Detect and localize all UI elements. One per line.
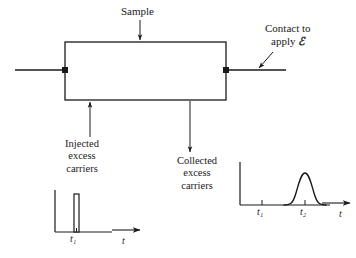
- right-contact-dot: [223, 67, 229, 73]
- injected-excess-carriers-label: Injected excess carriers: [39, 138, 125, 175]
- sample-label: Sample: [121, 5, 154, 18]
- semiconductor-bar: [65, 42, 226, 100]
- left-plot-x-axis-label: t: [122, 235, 125, 246]
- contact-pointer: [259, 52, 273, 68]
- electric-field-symbol: ℰ: [298, 35, 305, 48]
- left-plot-t1-label: t₁: [70, 233, 76, 244]
- contact-label-line1: Contact to: [265, 22, 311, 34]
- left-plot-injection-pulse: [74, 194, 79, 232]
- contact-label-line2: apply: [271, 35, 295, 47]
- injected-label-line3: carriers: [66, 163, 97, 174]
- collected-label-line2: excess: [183, 167, 210, 178]
- injected-excess-carriers-plot: [55, 190, 140, 232]
- collected-label-line1: Collected: [177, 155, 217, 166]
- right-plot-t2-label: t₂: [300, 206, 306, 217]
- injected-label-line1: Injected: [65, 138, 99, 149]
- injected-label-line2: excess: [68, 150, 95, 161]
- collected-label-line3: carriers: [181, 180, 212, 191]
- right-plot-t1-label: t₁: [257, 206, 263, 217]
- contact-label: Contact to apply ℰ: [265, 22, 311, 49]
- left-contact-dot: [62, 67, 68, 73]
- collected-excess-carriers-plot: [240, 162, 350, 205]
- right-plot-x-axis-label: t: [339, 208, 342, 219]
- collected-excess-carriers-label: Collected excess carriers: [153, 155, 241, 192]
- figure-root: Sample Contact to apply ℰ Injected exces…: [0, 0, 356, 258]
